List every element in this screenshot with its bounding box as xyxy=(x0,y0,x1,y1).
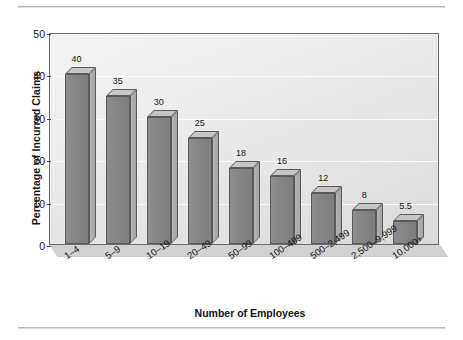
bar-value-label: 30 xyxy=(154,97,164,107)
bar-value-label: 35 xyxy=(113,76,123,86)
y-axis-tick-label: 20 xyxy=(33,155,50,167)
bar-value-label: 40 xyxy=(72,54,82,64)
bar-value-label: 5.5 xyxy=(399,201,412,211)
bar-value-label: 8 xyxy=(362,190,367,200)
bar-value-label: 18 xyxy=(236,148,246,158)
bar-front-face xyxy=(188,138,212,244)
bar-side-face xyxy=(171,110,178,244)
plot-area: 010203040504035302518161285.5 xyxy=(49,33,439,245)
bar[interactable]: 40 xyxy=(65,74,89,244)
bottom-divider-rule xyxy=(18,327,445,329)
y-axis-tick-label: 30 xyxy=(33,113,50,125)
bar-side-face xyxy=(253,161,260,244)
bar-value-label: 16 xyxy=(277,156,287,166)
bar[interactable]: 30 xyxy=(147,117,171,244)
bar[interactable]: 18 xyxy=(229,168,253,244)
top-divider-rule xyxy=(18,6,445,8)
bar-value-label: 25 xyxy=(195,118,205,128)
bar[interactable]: 25 xyxy=(188,138,212,244)
x-axis-tick-label: 1–4 xyxy=(62,243,81,261)
chart-figure: Percentage of Incurred Claims 0102030405… xyxy=(0,0,463,340)
bar-front-face xyxy=(229,168,253,244)
bar-front-face xyxy=(65,74,89,244)
gridline xyxy=(50,76,438,77)
bar-side-face xyxy=(89,67,96,244)
bar-side-face xyxy=(130,89,137,244)
y-axis-tick-label: 40 xyxy=(33,70,50,82)
y-axis-tick-label: 10 xyxy=(33,198,50,210)
bar-value-label: 12 xyxy=(318,173,328,183)
y-axis-tick-label: 0 xyxy=(39,240,50,252)
y-axis-tick-label: 50 xyxy=(33,28,50,40)
x-axis-title: Number of Employees xyxy=(60,307,440,319)
bar-front-face xyxy=(270,176,294,244)
bar-side-face xyxy=(212,131,219,244)
bar[interactable]: 16 xyxy=(270,176,294,244)
bar-front-face xyxy=(106,96,130,244)
x-axis-tick-label: 5–9 xyxy=(103,243,122,261)
bar[interactable]: 35 xyxy=(106,96,130,244)
bar-front-face xyxy=(147,117,171,244)
